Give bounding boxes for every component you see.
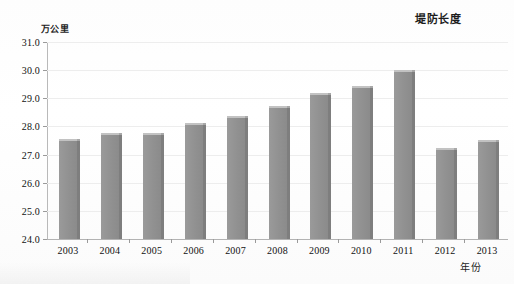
x-axis-tick	[255, 239, 256, 243]
bar-top-side-face	[245, 116, 248, 118]
gridline	[47, 70, 508, 71]
bar-side-face	[161, 135, 164, 239]
bar-side-face	[496, 142, 499, 239]
bar-face	[185, 125, 203, 239]
x-axis-tick-label: 2009	[309, 245, 330, 256]
bar-2011	[394, 72, 412, 239]
bar-2010	[352, 88, 370, 239]
bar-top-face	[59, 139, 77, 141]
bar-top-face	[310, 93, 328, 95]
y-axis-tick-label: 31.0	[22, 37, 40, 48]
x-axis-tick	[380, 239, 381, 243]
y-axis-tick	[43, 98, 47, 99]
bar-side-face	[203, 125, 206, 239]
bar-top-side-face	[454, 148, 457, 150]
y-axis-tick-label: 28.0	[22, 121, 40, 132]
bar-top-face	[352, 86, 370, 88]
x-axis-tick-label: 2004	[99, 245, 120, 256]
y-axis-tick-label: 25.0	[22, 205, 40, 216]
bar-side-face	[77, 141, 80, 240]
x-axis-tick	[422, 239, 423, 243]
bar-face	[143, 135, 161, 239]
bar-top-face	[394, 70, 412, 72]
y-axis-tick	[43, 183, 47, 184]
x-axis-tick-label: 2006	[183, 245, 204, 256]
bar-top-side-face	[412, 70, 415, 72]
bar-top-face	[269, 106, 287, 108]
bar-side-face	[412, 72, 415, 239]
bar-top-face	[436, 148, 454, 150]
bar-top-face	[101, 133, 119, 135]
bar-top-side-face	[370, 86, 373, 88]
bar-side-face	[370, 88, 373, 239]
x-axis-tick	[129, 239, 130, 243]
x-axis-tick-label: 2003	[58, 245, 79, 256]
bar-2004	[101, 135, 119, 239]
bar-face	[436, 150, 454, 239]
bar-top-face	[227, 116, 245, 118]
x-axis-tick	[213, 239, 214, 243]
bar-top-side-face	[328, 93, 331, 95]
y-axis-line	[47, 42, 48, 239]
bar-face	[352, 88, 370, 239]
bar-2008	[269, 108, 287, 239]
bar-face	[394, 72, 412, 239]
x-axis-title: 年份	[460, 259, 481, 274]
bar-side-face	[119, 135, 122, 239]
bar-face	[227, 118, 245, 239]
bar-top-side-face	[203, 123, 206, 125]
bar-top-side-face	[77, 139, 80, 141]
bar-face	[101, 135, 119, 239]
bar-side-face	[328, 95, 331, 239]
bar-2003	[59, 141, 77, 240]
bar-2007	[227, 118, 245, 239]
x-axis-tick-label: 2010	[351, 245, 372, 256]
bar-top-side-face	[496, 140, 499, 142]
plot-area: 31.030.029.028.027.026.025.024.020032004…	[47, 42, 508, 239]
y-axis-tick	[43, 155, 47, 156]
bar-side-face	[287, 108, 290, 239]
bar-top-face	[185, 123, 203, 125]
bar-top-face	[143, 133, 161, 135]
y-axis-tick-label: 27.0	[22, 149, 40, 160]
bar-2009	[310, 95, 328, 239]
x-axis-tick	[171, 239, 172, 243]
y-axis-tick	[43, 126, 47, 127]
page-shadow	[0, 262, 190, 284]
x-axis-tick-label: 2013	[477, 245, 498, 256]
gridline	[47, 42, 508, 43]
y-axis-tick	[43, 70, 47, 71]
x-axis-tick-label: 2008	[267, 245, 288, 256]
x-axis-tick	[338, 239, 339, 243]
bar-2005	[143, 135, 161, 239]
y-axis-tick-label: 26.0	[22, 177, 40, 188]
x-axis-tick	[297, 239, 298, 243]
bar-2013	[478, 142, 496, 239]
chart-title: 堤防长度	[415, 10, 461, 26]
x-axis-tick	[464, 239, 465, 243]
x-axis-tick-label: 2012	[435, 245, 456, 256]
gridline	[47, 98, 508, 99]
y-axis-tick	[43, 211, 47, 212]
bar-top-side-face	[119, 133, 122, 135]
y-axis-tick-label: 29.0	[22, 93, 40, 104]
y-axis-tick-label: 30.0	[22, 65, 40, 76]
y-axis-tick	[43, 239, 47, 240]
bar-side-face	[245, 118, 248, 239]
bar-top-side-face	[161, 133, 164, 135]
bar-face	[269, 108, 287, 239]
y-axis-unit-label: 万公里	[41, 22, 69, 35]
x-axis-tick-label: 2005	[141, 245, 162, 256]
x-axis-line	[47, 239, 508, 240]
x-axis-tick	[87, 239, 88, 243]
bar-face	[310, 95, 328, 239]
bar-face	[478, 142, 496, 239]
chart-figure: 堤防长度 万公里 31.030.029.028.027.026.025.024.…	[0, 0, 514, 284]
x-axis-tick-label: 2007	[225, 245, 246, 256]
bar-2012	[436, 150, 454, 239]
y-axis-tick-label: 24.0	[22, 234, 40, 245]
bar-side-face	[454, 150, 457, 239]
bar-face	[59, 141, 77, 240]
bar-2006	[185, 125, 203, 239]
bar-top-side-face	[287, 106, 290, 108]
